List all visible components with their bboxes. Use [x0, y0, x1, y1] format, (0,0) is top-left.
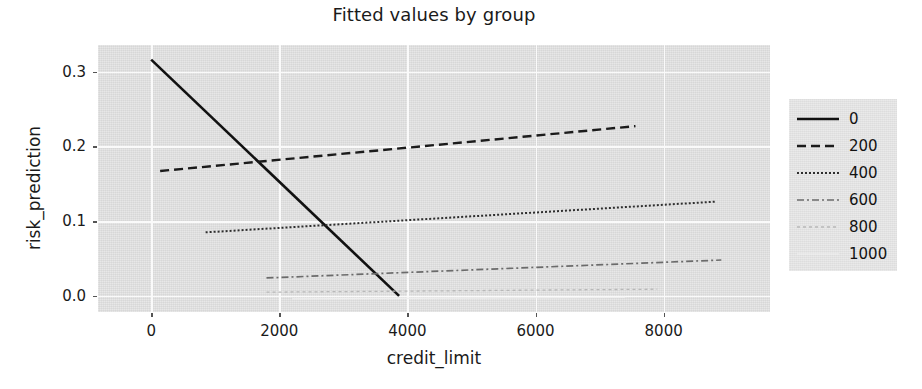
legend-label-800: 800	[849, 220, 878, 235]
legend-item-800[interactable]: 800	[796, 213, 896, 241]
tick-y-2	[93, 146, 97, 147]
tick-x-0	[151, 313, 152, 317]
legend-label-1000: 1000	[849, 247, 887, 262]
line-series-200	[160, 126, 635, 171]
legend-swatch-400	[796, 166, 840, 180]
y-axis-title: risk_prediction	[24, 68, 44, 308]
legend-swatch-1000	[796, 247, 840, 261]
tick-x-2	[407, 313, 408, 317]
tick-x-4	[664, 313, 665, 317]
tick-y-1	[93, 221, 97, 222]
tick-x-3	[536, 313, 537, 317]
legend-swatch-600	[796, 193, 840, 207]
line-series-0	[151, 60, 399, 296]
line-series-800	[266, 289, 657, 292]
line-series-600	[266, 260, 721, 278]
legend-item-600[interactable]: 600	[796, 186, 896, 214]
plot-area	[98, 45, 770, 312]
legend-label-0: 0	[849, 112, 859, 127]
legend-label-200: 200	[849, 139, 878, 154]
legend-label-600: 600	[849, 193, 878, 208]
tick-y-3	[93, 72, 97, 73]
x-tick-label-0: 0	[106, 322, 196, 340]
x-axis-title: credit_limit	[98, 348, 770, 368]
legend-swatch-200	[796, 139, 840, 153]
legend-swatch-800	[796, 220, 840, 234]
legend-item-200[interactable]: 200	[796, 132, 896, 160]
legend-item-1000[interactable]: 1000	[796, 240, 896, 268]
x-tick-label-4: 8000	[619, 322, 709, 340]
x-tick-label-1: 2000	[234, 322, 324, 340]
chart-figure: Fitted values by group 0.00.10.20.3 0200…	[0, 0, 922, 389]
legend-label-400: 400	[849, 166, 878, 181]
line-series-1000	[292, 297, 625, 298]
legend-item-0[interactable]: 0	[796, 105, 896, 133]
legend-item-400[interactable]: 400	[796, 159, 896, 187]
tick-y-0	[93, 296, 97, 297]
x-tick-label-2: 4000	[362, 322, 452, 340]
series-lines	[98, 45, 770, 312]
chart-title: Fitted values by group	[98, 4, 770, 25]
line-series-400	[206, 202, 715, 233]
x-tick-label-3: 6000	[491, 322, 581, 340]
legend[interactable]: 02004006008001000	[789, 99, 897, 271]
legend-swatch-0	[796, 112, 840, 126]
tick-x-1	[279, 313, 280, 317]
